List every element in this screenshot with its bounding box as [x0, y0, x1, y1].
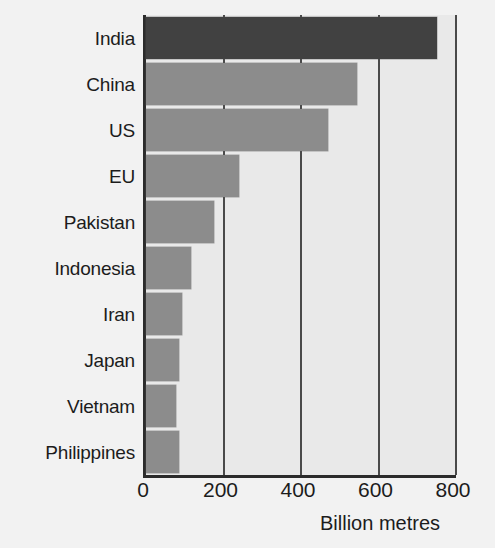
y-axis-label-pakistan: Pakistan — [0, 213, 135, 232]
x-tick-200: 200 — [203, 478, 238, 502]
bar-eu[interactable] — [146, 155, 239, 197]
bar-india[interactable] — [146, 17, 437, 59]
y-axis-label-iran: Iran — [0, 305, 135, 324]
bars-layer — [146, 15, 456, 475]
y-axis-label-india: India — [0, 29, 135, 48]
y-axis-label-us: US — [0, 121, 135, 140]
y-axis-label-philippines: Philippines — [0, 443, 135, 462]
plot-area — [143, 15, 456, 478]
y-axis-label-eu: EU — [0, 167, 135, 186]
bar-china[interactable] — [146, 63, 357, 105]
y-axis-label-indonesia: Indonesia — [0, 259, 135, 278]
bar-indonesia[interactable] — [146, 247, 191, 289]
y-axis-label-vietnam: Vietnam — [0, 397, 135, 416]
bar-us[interactable] — [146, 109, 328, 151]
y-axis-label-china: China — [0, 75, 135, 94]
bar-vietnam[interactable] — [146, 385, 176, 427]
bar-chart-figure: IndiaChinaUSEUPakistanIndonesiaIranJapan… — [0, 0, 495, 548]
x-tick-400: 400 — [280, 478, 315, 502]
y-axis-label-japan: Japan — [0, 351, 135, 370]
x-tick-600: 600 — [358, 478, 393, 502]
bar-iran[interactable] — [146, 293, 182, 335]
x-tick-0: 0 — [137, 478, 149, 502]
bar-japan[interactable] — [146, 339, 179, 381]
bar-pakistan[interactable] — [146, 201, 214, 243]
x-tick-800: 800 — [435, 478, 470, 502]
y-axis-category-labels: IndiaChinaUSEUPakistanIndonesiaIranJapan… — [0, 15, 135, 475]
x-axis-title: Billion metres — [300, 512, 460, 534]
bar-philippines[interactable] — [146, 431, 179, 473]
x-axis-tick-labels: 0200400600800 — [143, 478, 455, 504]
